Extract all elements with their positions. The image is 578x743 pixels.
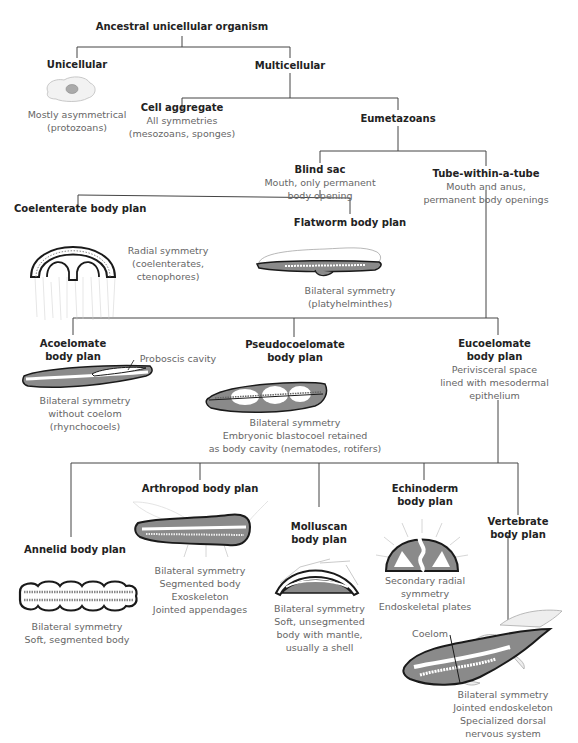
node-title: Cell aggregate — [112, 101, 252, 114]
node-eumetazoans: Eumetazoans — [338, 112, 458, 125]
desc-line: Jointed appendages — [140, 603, 260, 616]
node-title: body plan — [274, 533, 364, 546]
desc-line: All symmetries — [112, 114, 252, 127]
node-title: Ancestral unicellular organism — [92, 20, 272, 33]
desc-line: usually a shell — [262, 641, 377, 654]
molluscan-illustration — [270, 555, 365, 600]
arthropod-illustration — [128, 497, 270, 559]
node-pseudocoelomate-desc: Bilateral symmetry Embryonic blastocoel … — [195, 416, 395, 455]
desc-line: Segmented body — [140, 577, 260, 590]
desc-line: Secondary radial — [370, 574, 480, 587]
node-title: body plan — [235, 351, 355, 364]
desc-line: Soft, segmented body — [12, 633, 142, 646]
desc-line: body opening — [250, 189, 390, 202]
desc-line: (mesozoans, sponges) — [112, 127, 252, 140]
desc-line: (coelenterates, — [118, 257, 218, 270]
node-title: Unicellular — [17, 58, 137, 71]
desc-line: (platyhelminthes) — [280, 297, 420, 310]
node-title: Annelid body plan — [15, 543, 135, 556]
acoelomate-illustration — [22, 360, 157, 392]
vertebrate-illustration — [400, 607, 570, 692]
annelid-illustration — [16, 578, 140, 614]
desc-line: nervous system — [428, 727, 578, 740]
node-flatworm-desc: Bilateral symmetry (platyhelminthes) — [280, 284, 420, 310]
node-title: body plan — [380, 495, 470, 508]
node-pseudocoelomate: Pseudocoelomate body plan — [235, 338, 355, 364]
desc-line: Soft, unsegmented — [262, 615, 377, 628]
node-molluscan-desc: Bilateral symmetry Soft, unsegmented bod… — [262, 602, 377, 654]
desc-line: Mouth and anus, — [406, 180, 566, 193]
desc-line: without coelom — [25, 407, 145, 420]
desc-line: lined with mesodermal — [427, 376, 562, 389]
node-vertebrate: Vertebrate body plan — [478, 515, 558, 541]
node-coelenterate-desc: Radial symmetry (coelenterates, ctenopho… — [118, 244, 218, 283]
desc-line: ctenophores) — [118, 270, 218, 283]
desc-line: Jointed endoskeleton — [428, 701, 578, 714]
node-arthropod-desc: Bilateral symmetry Segmented body Exoske… — [140, 564, 260, 616]
desc-line: Bilateral symmetry — [140, 564, 260, 577]
coelenterate-illustration — [25, 222, 125, 322]
desc-line: as body cavity (nematodes, rotifers) — [195, 442, 395, 455]
desc-line: permanent body openings — [406, 193, 566, 206]
desc-line: Exoskeleton — [140, 590, 260, 603]
node-coelenterate: Coelenterate body plan — [14, 202, 144, 215]
node-echinoderm: Echinoderm body plan — [380, 482, 470, 508]
node-cell-aggregate: Cell aggregate All symmetries (mesozoans… — [112, 101, 252, 140]
desc-line: symmetry — [370, 587, 480, 600]
node-ancestral-organism: Ancestral unicellular organism — [92, 20, 272, 33]
desc-line: Bilateral symmetry — [262, 602, 377, 615]
node-title: Vertebrate — [478, 515, 558, 528]
pseudocoelomate-illustration — [205, 380, 330, 414]
node-title: Blind sac — [250, 163, 390, 176]
desc-line: Embryonic blastocoel retained — [195, 429, 395, 442]
node-title: Arthropod body plan — [135, 482, 265, 495]
node-title: Eucoelomate — [427, 337, 562, 350]
desc-line: Bilateral symmetry — [12, 620, 142, 633]
desc-line: epithelium — [427, 389, 562, 402]
node-title: Tube-within-a-tube — [406, 167, 566, 180]
node-blind-sac: Blind sac Mouth, only permanent body ope… — [250, 145, 390, 202]
node-title: body plan — [478, 528, 558, 541]
desc-line: Radial symmetry — [118, 244, 218, 257]
desc-line: Bilateral symmetry — [428, 688, 578, 701]
node-vertebrate-desc: Bilateral symmetry Jointed endoskeleton … — [428, 688, 578, 740]
node-arthropod: Arthropod body plan — [135, 482, 265, 495]
node-annelid-desc: Bilateral symmetry Soft, segmented body — [12, 620, 142, 646]
node-title: Molluscan — [274, 520, 364, 533]
node-title: Multicellular — [230, 59, 350, 72]
desc-line: (rhynchocoels) — [25, 420, 145, 433]
desc-line: Bilateral symmetry — [280, 284, 420, 297]
flatworm-illustration — [255, 240, 385, 280]
node-title: body plan — [427, 350, 562, 363]
node-acoelomate-desc: Bilateral symmetry without coelom (rhync… — [25, 394, 145, 433]
node-flatworm: Flatworm body plan — [280, 216, 420, 229]
desc-line: body with mantle, — [262, 628, 377, 641]
node-title: Echinoderm — [380, 482, 470, 495]
node-title: Flatworm body plan — [280, 216, 420, 229]
node-tube-within-a-tube: Tube-within-a-tube Mouth and anus, perma… — [406, 149, 566, 206]
node-title: Pseudocoelomate — [235, 338, 355, 351]
node-annelid: Annelid body plan — [15, 543, 135, 556]
node-unicellular: Unicellular — [17, 58, 137, 71]
node-eucoelomate: Eucoelomate body plan Perivisceral space… — [427, 337, 562, 402]
desc-line: Perivisceral space — [427, 363, 562, 376]
node-title: Eumetazoans — [338, 112, 458, 125]
node-title: Acoelomate — [23, 337, 123, 350]
echinoderm-illustration — [372, 515, 472, 575]
desc-line: Bilateral symmetry — [195, 416, 395, 429]
protozoan-illustration — [42, 74, 100, 104]
node-title: Coelenterate body plan — [14, 202, 144, 215]
desc-line: Specialized dorsal — [428, 714, 578, 727]
node-molluscan: Molluscan body plan — [274, 520, 364, 546]
desc-line: Bilateral symmetry — [25, 394, 145, 407]
node-multicellular: Multicellular — [230, 59, 350, 72]
desc-line: Mouth, only permanent — [250, 176, 390, 189]
